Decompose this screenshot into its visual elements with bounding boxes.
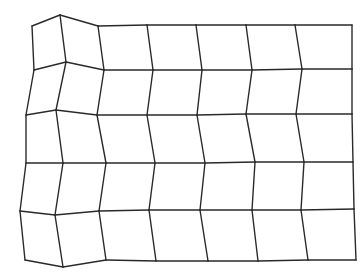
horizontal-mesh-lines	[20, 15, 356, 267]
mesh-edge-horizontal	[66, 62, 104, 70]
mesh-edge-vertical	[97, 115, 106, 163]
mesh-edge-vertical	[196, 25, 202, 70]
mesh-edge-vertical	[301, 162, 304, 210]
mesh-edge-vertical	[200, 163, 205, 210]
mesh-edge-horizontal	[197, 114, 246, 115]
mesh-edge-vertical	[99, 211, 106, 260]
mesh-edge-vertical	[246, 114, 255, 162]
mesh-edge-vertical	[60, 15, 66, 62]
mesh-edge-vertical	[99, 163, 106, 211]
mesh-edge-vertical	[301, 210, 308, 260]
mesh-edge-vertical	[352, 114, 353, 162]
mesh-edge-vertical	[147, 25, 153, 70]
mesh-edge-vertical	[26, 70, 34, 115]
mesh-edge-horizontal	[252, 69, 302, 70]
mesh-edge-vertical	[246, 25, 252, 70]
mesh-edge-vertical	[98, 26, 104, 70]
mesh-edge-horizontal	[20, 211, 55, 215]
mesh-edge-vertical	[252, 210, 258, 261]
mesh-edge-vertical	[20, 211, 25, 260]
mesh-edge-vertical	[246, 70, 252, 114]
mesh-edge-horizontal	[205, 162, 255, 163]
mesh-edge-vertical	[197, 70, 202, 115]
mesh-edge-vertical	[149, 163, 155, 210]
mesh-edge-vertical	[147, 70, 153, 115]
vertical-mesh-lines	[20, 15, 356, 267]
mesh-edge-vertical	[296, 114, 304, 162]
mesh-edge-horizontal	[56, 110, 97, 115]
mesh-edge-horizontal	[25, 260, 63, 267]
mesh-edge-horizontal	[301, 209, 354, 210]
mesh-edge-horizontal	[99, 210, 149, 211]
mesh-edge-vertical	[55, 215, 63, 267]
mesh-edge-horizontal	[32, 15, 60, 26]
mesh-edge-vertical	[197, 115, 205, 163]
mesh-edge-horizontal	[98, 25, 147, 26]
mesh-edge-vertical	[147, 115, 155, 163]
mesh-edge-vertical	[56, 62, 66, 110]
mesh-edge-horizontal	[106, 260, 156, 261]
mesh-edge-vertical	[97, 70, 104, 115]
mesh-edge-vertical	[149, 210, 156, 261]
mesh-edge-vertical	[295, 25, 302, 69]
mesh-edge-vertical	[200, 210, 208, 261]
mesh-edge-vertical	[252, 162, 255, 210]
mesh-edge-vertical	[353, 162, 354, 209]
mesh-edge-horizontal	[63, 260, 106, 267]
mesh-edge-horizontal	[258, 260, 308, 261]
deformed-mesh-diagram	[0, 0, 364, 278]
mesh-edge-vertical	[55, 163, 63, 215]
mesh-edge-vertical	[354, 209, 356, 260]
mesh-edge-vertical	[32, 26, 34, 70]
mesh-edge-horizontal	[26, 110, 56, 115]
mesh-edge-vertical	[20, 163, 26, 211]
mesh-edge-vertical	[56, 110, 63, 163]
mesh-edge-horizontal	[55, 211, 99, 215]
mesh-edge-horizontal	[34, 62, 66, 70]
mesh-edge-horizontal	[60, 15, 98, 26]
mesh-edge-vertical	[296, 69, 302, 114]
